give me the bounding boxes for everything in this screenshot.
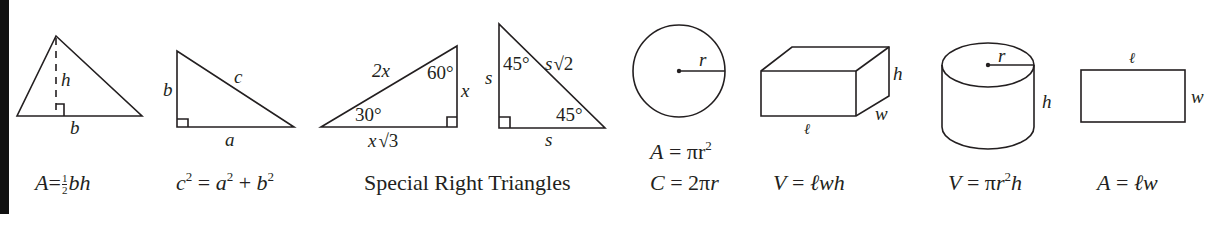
label-leg-a: a <box>225 129 235 150</box>
label-leg-b: b <box>163 79 173 100</box>
circle-center-dot <box>677 69 681 73</box>
formula-rectangle-area: A = ℓw <box>1097 170 1158 196</box>
label-s-bottom: s <box>545 129 552 150</box>
label-x: x <box>460 80 470 101</box>
label-radius: r <box>699 49 707 70</box>
cylinder-center-dot <box>986 63 990 67</box>
label-2x: 2x <box>372 60 391 81</box>
cylinder-figure <box>942 43 1034 149</box>
label-rect-l: ℓ <box>1129 50 1135 66</box>
label-s-root2: s√2 <box>545 53 573 74</box>
label-hypotenuse-c: c <box>234 66 243 87</box>
formula-cylinder-volume: V = πr2h <box>948 170 1022 196</box>
label-s-left: s <box>485 67 492 88</box>
rectangle-figure <box>1081 70 1185 122</box>
label-height: h <box>61 69 71 90</box>
formula-pythagorean: c2 = a2 + b2 <box>176 170 274 196</box>
right-triangle-figure <box>177 51 294 127</box>
triangle-45-45-90-figure <box>499 24 605 128</box>
triangle-30-60-90-figure <box>321 46 457 127</box>
label-cyl-h: h <box>1042 91 1052 112</box>
label-box-l: ℓ <box>804 121 810 137</box>
label-30deg: 30° <box>355 104 382 125</box>
label-box-w: w <box>875 103 888 124</box>
formula-circle-area: A = πr2 <box>650 139 712 165</box>
formula-circle-circumference: C = 2πr <box>650 170 719 196</box>
formula-triangle-area: A=12bh <box>35 170 90 196</box>
label-45deg-bottom: 45° <box>556 104 583 125</box>
label-45deg-top: 45° <box>503 53 530 74</box>
triangle-figure <box>17 36 142 116</box>
label-box-h: h <box>893 63 903 84</box>
label-60deg: 60° <box>427 62 454 83</box>
special-right-triangles-caption: Special Right Triangles <box>364 170 571 196</box>
box-figure <box>761 47 889 116</box>
formula-box-volume: V = ℓwh <box>773 170 845 196</box>
label-cyl-r: r <box>998 45 1006 66</box>
label-x-root3: x√3 <box>367 130 398 151</box>
label-base: b <box>70 117 80 138</box>
label-rect-w: w <box>1191 86 1204 107</box>
